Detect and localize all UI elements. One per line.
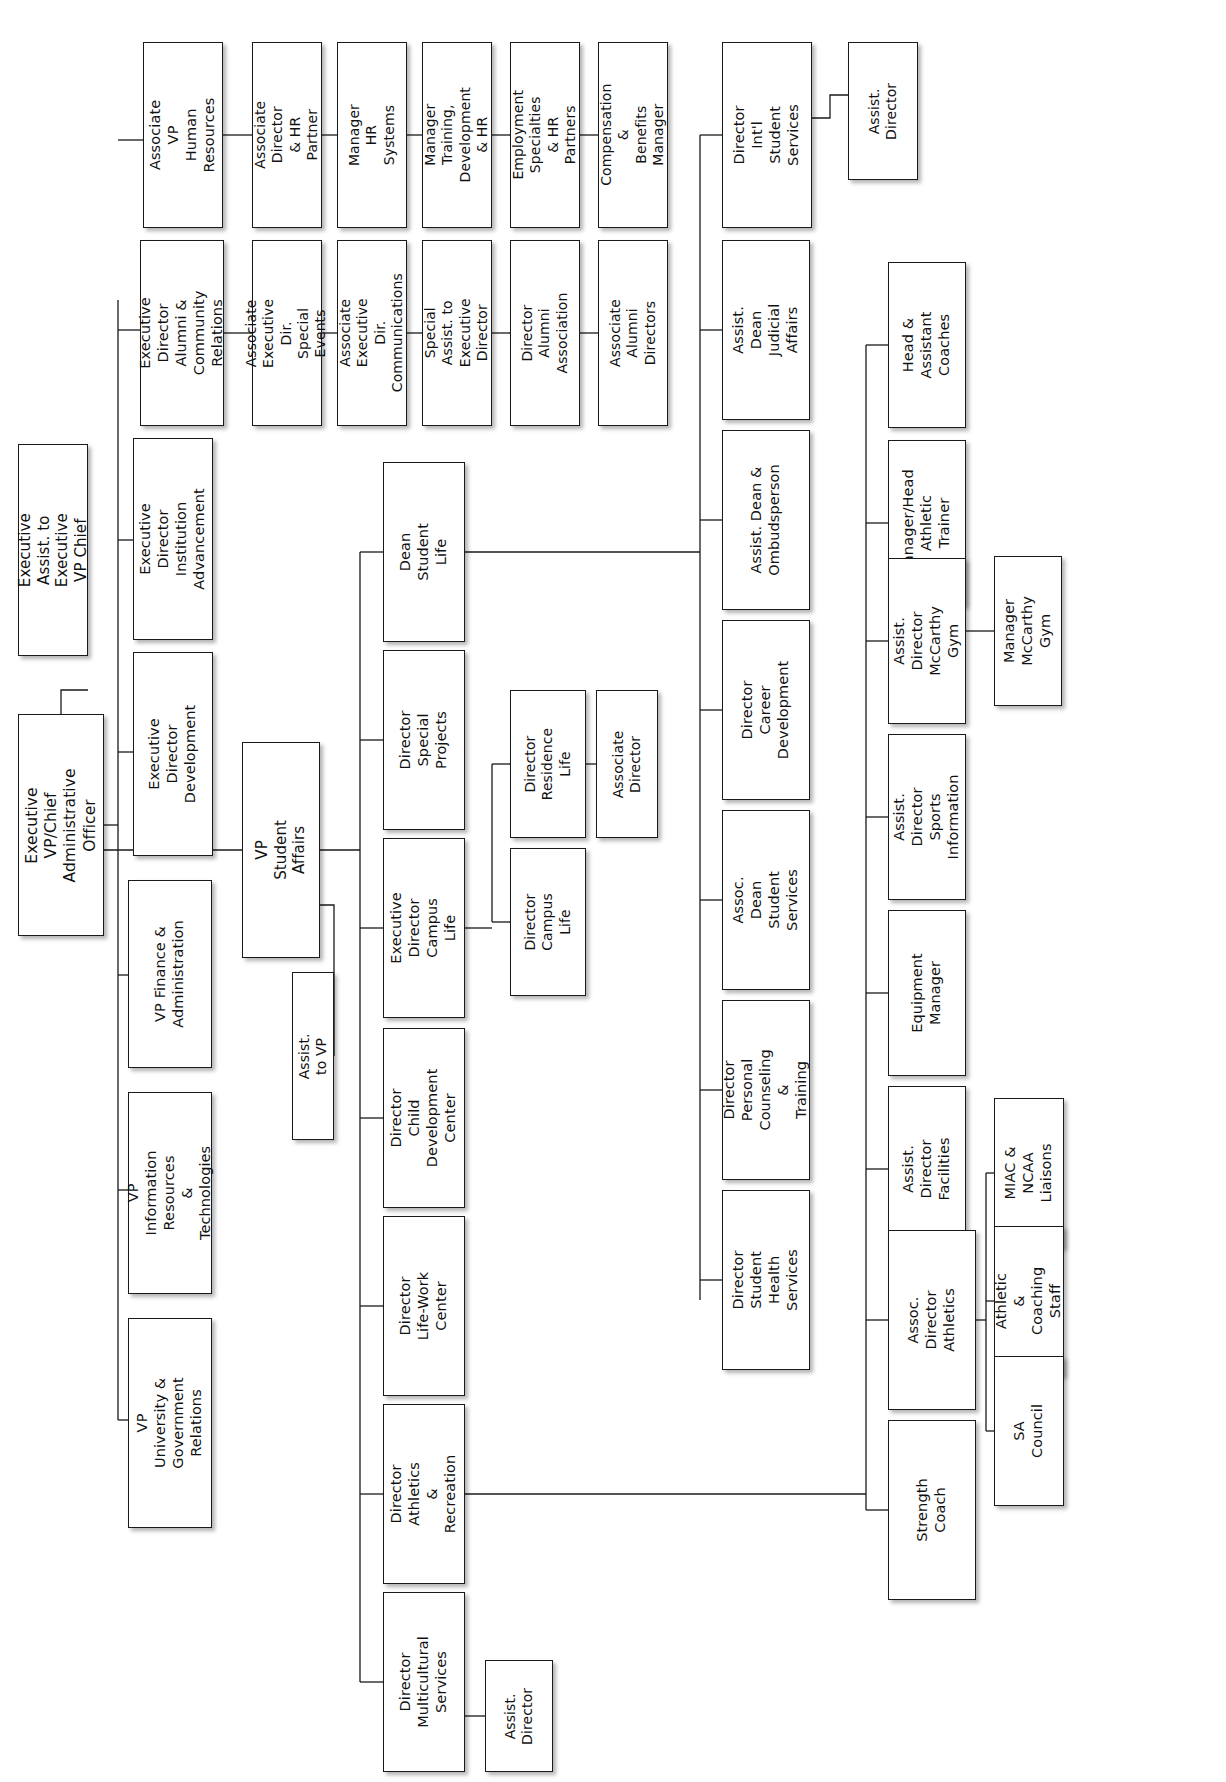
org-node-mgr_training[interactable]: Manager Training, Development & HR (422, 42, 492, 228)
org-node-label: Assoc. Dean Student Services (730, 857, 802, 943)
org-node-head_coaches[interactable]: Head & Assistant Coaches (888, 262, 966, 428)
org-node-label: Assist. Dean Judicial Affairs (730, 287, 802, 373)
org-node-label: Dean Student Life (397, 512, 451, 592)
org-node-spec_assist[interactable]: Special Assist. to Executive Director (422, 240, 492, 426)
org-node-label: Director Residence Life (522, 727, 574, 801)
org-node-assist_dean_j[interactable]: Assist. Dean Judicial Affairs (722, 240, 810, 420)
org-node-multicult_ast[interactable]: Assist. Director (485, 1660, 553, 1772)
org-node-label: Director Career Development (739, 661, 793, 760)
org-node-label: Executive Director Institution Advanceme… (137, 488, 209, 589)
org-node-employment[interactable]: Employment Specialties & HR Partners (510, 42, 580, 228)
org-node-label: Assoc. Director Athletics (905, 1277, 959, 1363)
org-node-label: Athletic & Coaching Staff (993, 1267, 1065, 1335)
org-node-assoc_exec_se[interactable]: Associate Executive Dir. Special Events (252, 240, 322, 426)
org-node-dir_health[interactable]: Director Student Health Services (722, 1190, 810, 1370)
org-node-exec_vp[interactable]: Executive VP/Chief Administrative Office… (18, 714, 104, 936)
org-node-dir_alumni_as[interactable]: Director Alumni Association (510, 240, 580, 426)
org-node-vp_finance[interactable]: VP Finance & Administration (128, 880, 212, 1068)
org-node-label: Director Alumni Association (519, 293, 571, 374)
org-node-label: Assist. Director (866, 77, 901, 145)
org-node-dir_child[interactable]: Director Child Development Center (383, 1028, 465, 1208)
org-node-label: VP Information Resources & Technologies (125, 1146, 215, 1240)
org-node-label: Assist. Director Facilities (900, 1131, 954, 1207)
org-node-strength[interactable]: Strength Coach (888, 1420, 976, 1600)
org-node-dir_intl[interactable]: Director Int'l Student Services (722, 42, 812, 228)
org-node-assoc_dir_ath[interactable]: Assoc. Director Athletics (888, 1230, 976, 1410)
org-node-label: Manager Training, Development & HR (422, 87, 491, 182)
org-node-label: Compensation & Benefits Manager (598, 84, 667, 186)
org-node-dir_personal[interactable]: Director Personal Counseling & Training (722, 1000, 810, 1180)
org-node-label: VP University & Government Relations (134, 1377, 206, 1468)
org-node-label: Manager HR Systems (346, 101, 398, 169)
org-node-dir_lifework[interactable]: Director Life-Work Center (383, 1216, 465, 1396)
org-node-dir_campus[interactable]: Director Campus Life (510, 848, 586, 996)
org-node-label: Employment Specialties & HR Partners (510, 90, 579, 180)
org-node-athletic_staff[interactable]: Athletic & Coaching Staff (994, 1226, 1064, 1376)
org-node-dir_multicult[interactable]: Director Multicultural Services (383, 1592, 465, 1772)
org-node-equip_mgr[interactable]: Equipment Manager (888, 910, 966, 1076)
org-node-label: Associate Executive Dir. Special Events (244, 298, 331, 367)
org-node-vp_info[interactable]: VP Information Resources & Technologies (128, 1092, 212, 1294)
org-node-sa_council[interactable]: SA Council (994, 1356, 1064, 1506)
org-node-ad_mccarthy[interactable]: Assist. Director McCarthy Gym (888, 558, 966, 724)
org-node-mgr_hr_sys[interactable]: Manager HR Systems (337, 42, 407, 228)
org-node-vp_student[interactable]: VP Student Affairs (242, 742, 320, 958)
org-node-assoc_alumni[interactable]: Associate Alumni Directors (598, 240, 668, 426)
org-node-ad_facilities[interactable]: Assist. Director Facilities (888, 1086, 966, 1252)
org-node-label: Special Assist. to Executive Director (422, 298, 491, 367)
org-node-label: Associate Director (610, 730, 645, 798)
org-node-label: Director Student Health Services (730, 1237, 802, 1323)
org-node-ad_sports[interactable]: Assist. Director Sports Information (888, 734, 966, 900)
org-node-label: Director Personal Counseling & Training (721, 1047, 811, 1133)
org-node-res_assoc_dir[interactable]: Associate Director (596, 690, 658, 838)
org-node-label: Director Athletics & Recreation (388, 1454, 460, 1534)
org-node-label: Director Special Projects (397, 700, 451, 780)
org-node-ed_dev[interactable]: Executive Director Development (133, 652, 213, 856)
org-node-label: Assist. Director Sports Information (891, 774, 963, 859)
org-node-assist_dean_o[interactable]: Assist. Dean & Ombudsperson (722, 430, 810, 610)
org-chart: Executive VP/Chief Administrative Office… (0, 0, 1226, 1782)
org-node-mgr_mccarthy[interactable]: Manager McCarthy Gym (994, 556, 1062, 706)
org-node-dean_sl[interactable]: Dean Student Life (383, 462, 465, 642)
org-node-intl_assist[interactable]: Assist. Director (848, 42, 918, 180)
org-node-label: Associate Executive Dir. Communications (337, 273, 406, 392)
org-node-ed_campus[interactable]: Executive Director Campus Life (383, 838, 465, 1018)
org-node-dir_residence[interactable]: Director Residence Life (510, 690, 586, 838)
org-node-label: Director Child Development Center (388, 1069, 460, 1168)
org-node-dir_career[interactable]: Director Career Development (722, 620, 810, 800)
org-node-label: MIAC & NCAA Liaisons (1002, 1139, 1056, 1207)
org-node-label: Director Campus Life (522, 885, 574, 959)
org-node-label: Equipment Manager (909, 953, 945, 1033)
org-node-label: VP Finance & Administration (152, 920, 188, 1028)
org-node-label: Manager McCarthy Gym (1001, 596, 1055, 666)
org-node-assoc_exec_co[interactable]: Associate Executive Dir. Communications (337, 240, 407, 426)
org-node-avp_hr[interactable]: Associate VP Human Resources (143, 42, 223, 228)
org-node-vp_univ_gov[interactable]: VP University & Government Relations (128, 1318, 212, 1528)
org-node-label: Executive Director Alumni & Community Re… (137, 291, 227, 376)
org-node-label: Executive VP/Chief Administrative Office… (23, 768, 100, 882)
org-node-ed_inst_adv[interactable]: Executive Director Institution Advanceme… (133, 438, 213, 640)
org-node-assoc_dean_ss[interactable]: Assoc. Dean Student Services (722, 810, 810, 990)
org-node-label: Associate Director & HR Partner (252, 101, 321, 169)
org-node-label: Assist. Dean & Ombudsperson (748, 464, 784, 576)
org-node-assoc_dir_hr[interactable]: Associate Director & HR Partner (252, 42, 322, 228)
org-node-label: Director Int'l Student Services (731, 91, 803, 179)
org-node-label: Director Life-Work Center (397, 1266, 451, 1346)
org-node-label: Assist. to VP (296, 1033, 331, 1079)
org-node-label: Head & Assistant Coaches (900, 307, 954, 383)
org-node-dir_athletics[interactable]: Director Athletics & Recreation (383, 1404, 465, 1584)
org-node-dir_special[interactable]: Director Special Projects (383, 650, 465, 830)
org-node-label: Assist. Director (502, 1683, 537, 1749)
org-node-label: Executive Director Development (146, 705, 200, 804)
org-node-label: Associate Alumni Directors (607, 299, 659, 367)
org-node-label: Director Multicultural Services (397, 1636, 451, 1728)
org-node-label: Strength Coach (914, 1467, 950, 1553)
org-node-label: Executive Assist. to Executive VP Chief (16, 513, 90, 587)
org-node-label: SA Council (1011, 1397, 1047, 1465)
org-node-comp_benefits[interactable]: Compensation & Benefits Manager (598, 42, 668, 228)
org-node-label: Associate VP Human Resources (147, 96, 219, 174)
org-node-assist_to_vp[interactable]: Assist. to VP (292, 972, 334, 1140)
org-node-ed_alumni[interactable]: Executive Director Alumni & Community Re… (140, 240, 224, 426)
org-node-label: Assist. Director McCarthy Gym (891, 603, 963, 679)
org-node-exec_assist[interactable]: Executive Assist. to Executive VP Chief (18, 444, 88, 656)
